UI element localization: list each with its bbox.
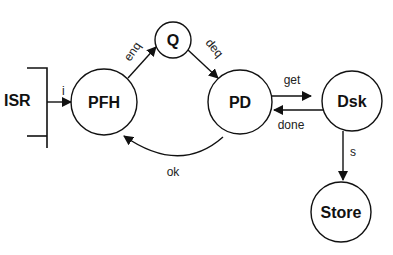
node-pfh[interactable]: PFH <box>71 69 137 135</box>
state-diagram: ISR PFH Q PD Dsk Store i enq deq get don… <box>0 0 393 255</box>
node-store[interactable]: Store <box>311 182 371 242</box>
edge-label-enq: enq <box>121 39 144 63</box>
edge-pd-dsk: get <box>272 73 311 96</box>
node-pd[interactable]: PD <box>208 70 272 134</box>
node-dsk-label: Dsk <box>337 93 366 110</box>
node-dsk[interactable]: Dsk <box>322 71 382 131</box>
isr-label: ISR <box>4 92 31 109</box>
node-pfh-label: PFH <box>88 94 120 111</box>
edge-label-s: s <box>350 145 356 159</box>
node-q[interactable]: Q <box>155 22 191 58</box>
edge-isr-pfh: i <box>47 84 71 102</box>
edge-pfh-q: enq <box>121 39 156 78</box>
edge-label-ok: ok <box>167 165 181 179</box>
edge-q-pd: deq <box>188 36 226 78</box>
node-q-label: Q <box>167 32 179 49</box>
edge-label-get: get <box>284 73 301 87</box>
isr-source: ISR <box>4 68 47 148</box>
edge-pd-pfh: ok <box>124 136 223 179</box>
edge-label-i: i <box>62 84 65 98</box>
node-store-label: Store <box>321 204 362 221</box>
edge-label-deq: deq <box>203 36 227 60</box>
edge-label-done: done <box>278 118 305 132</box>
edge-dsk-pd: done <box>274 110 323 132</box>
node-pd-label: PD <box>229 94 251 111</box>
edge-dsk-store: s <box>343 131 356 180</box>
